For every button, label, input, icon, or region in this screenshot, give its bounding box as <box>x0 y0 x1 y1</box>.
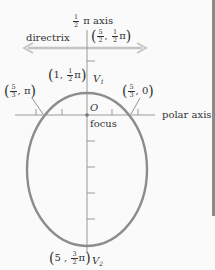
v2-point-label: (5 , 32π) <box>49 251 91 265</box>
v1-vertex-label: V1 <box>93 74 104 85</box>
right-point-label: (53, 0) <box>122 84 154 98</box>
vertical-axis-label: 12 π axis <box>72 14 113 28</box>
v1-point-label: (1, 12π) <box>48 68 86 82</box>
left-point-leader <box>32 98 43 114</box>
directrix-label: directrix <box>26 33 70 43</box>
right-point-leader <box>131 98 140 114</box>
directrix-point-label: (52, 12π) <box>91 29 131 43</box>
ellipse-polar-diagram: 12 π axis directrix (52, 12π) (1, 12π) V… <box>0 0 215 270</box>
page-edge-bar <box>212 0 215 216</box>
origin-label: O <box>90 103 98 113</box>
polar-axis-label: polar axis <box>162 110 211 120</box>
left-point-label: (53, π) <box>4 84 36 98</box>
focus-point <box>85 113 89 117</box>
v2-vertex-label: V2 <box>92 256 103 267</box>
directrix-line <box>24 43 146 53</box>
focus-label: focus <box>90 119 117 129</box>
fraction: 12 <box>73 14 79 28</box>
